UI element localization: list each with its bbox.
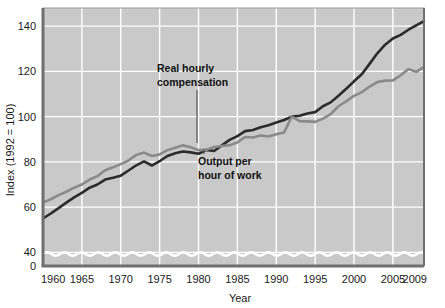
line-chart: 0406080100120140 19601965197019751980198… [0, 0, 445, 308]
annotation-label-line: Output per [198, 155, 252, 167]
x-axis-tick-label: 1985 [225, 273, 249, 285]
y-axis-tick-label: 120 [18, 65, 36, 77]
annotation-label-line: compensation [157, 76, 228, 88]
y-axis-tick-label: 60 [24, 201, 36, 213]
y-axis-tick-label: 40 [24, 246, 36, 258]
y-axis-title: Index (1992 = 100) [4, 104, 16, 197]
annotation-label-line: Real hourly [157, 62, 214, 74]
x-axis-tick-label: 1960 [41, 273, 65, 285]
y-axis-tick-label: 100 [18, 111, 36, 123]
annotation-label-line: hour of work [198, 169, 262, 181]
x-axis-tick-label: 2005 [381, 273, 405, 285]
x-axis-title: Year [229, 292, 252, 304]
x-axis-tick-label: 1975 [147, 273, 171, 285]
x-axis-tick-label: 1965 [70, 273, 94, 285]
y-axis-tick-label: 140 [18, 20, 36, 32]
x-axis-tick-label: 1995 [303, 273, 327, 285]
chart-figure: 0406080100120140 19601965197019751980198… [0, 0, 445, 308]
x-axis-tick-label: 1970 [109, 273, 133, 285]
y-axis-tick-label: 80 [24, 156, 36, 168]
y-axis-tick-label: 0 [30, 260, 36, 272]
x-axis-tick-label: 1980 [186, 273, 210, 285]
x-axis-tick-label: 2009 [403, 273, 427, 285]
x-axis-tick-label: 2000 [342, 273, 366, 285]
x-axis-tick-label: 1990 [264, 273, 288, 285]
